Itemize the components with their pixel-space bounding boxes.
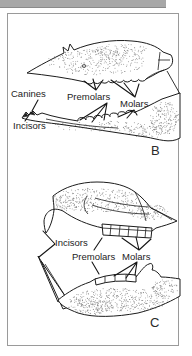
panel-letter-c: C [150,316,159,329]
label-incisors-c: Incisors [55,238,88,248]
label-molars-b: Molars [120,99,149,109]
skull-illustration [0,0,192,356]
label-premolars-c: Premolars [72,252,115,262]
panel-letter-b: B [151,144,160,157]
label-canines-b: Canines [11,89,46,99]
label-molars-c: Molars [122,252,151,262]
label-premolars-b: Premolars [67,92,110,102]
figure-page: Canines Premolars Molars Incisors B Inci… [0,0,192,356]
label-incisors-b: Incisors [13,121,46,131]
